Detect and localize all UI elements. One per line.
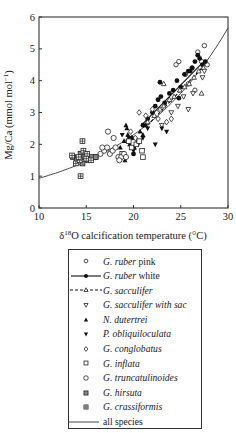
legend-item: G. truncatulinoides (69, 371, 201, 386)
legend-item: N. dutertrei (69, 312, 201, 327)
legend-label: G. inflata (103, 359, 140, 369)
legend-item: G. ruber pink (69, 254, 201, 269)
legend-label: P. obliquiloculata (103, 329, 171, 339)
svg-text:4: 4 (30, 75, 36, 86)
legend: G. ruber pinkG. ruber whiteG. sacculifer… (68, 249, 202, 429)
legend-label: G. sacculifer with sac (103, 300, 187, 310)
legend-label: G. conglobatus (103, 344, 162, 354)
legend-item: G. hirsuta (69, 385, 201, 400)
legend-marker-icon (69, 299, 103, 311)
svg-text:15: 15 (81, 211, 92, 222)
legend-item: G. inflata (69, 356, 201, 371)
data-points (70, 43, 210, 178)
svg-text:1: 1 (30, 171, 35, 182)
legend-marker-icon (69, 387, 103, 399)
legend-marker-icon (69, 328, 103, 340)
legend-label: N. dutertrei (103, 315, 147, 325)
svg-text:20: 20 (128, 211, 139, 222)
legend-item: G. sacculifer with sac (69, 298, 201, 313)
legend-item: G. conglobatus (69, 342, 201, 357)
legend-label: all species (103, 417, 143, 427)
svg-text:25: 25 (176, 211, 187, 222)
legend-label: G. truncatulinoides (103, 373, 178, 383)
svg-text:6: 6 (30, 12, 35, 23)
plot-frame (39, 17, 228, 208)
legend-marker-icon (69, 357, 103, 369)
legend-item: G. ruber white (69, 269, 201, 284)
svg-text:10: 10 (34, 211, 45, 222)
svg-text:5: 5 (30, 43, 35, 54)
legend-marker-icon (69, 401, 103, 413)
svg-text:30: 30 (223, 211, 234, 222)
legend-label: G. sacculifer (103, 286, 153, 296)
legend-marker-icon (69, 314, 103, 326)
y-axis-label: Mg/Ca (mmol mol−1) (2, 70, 15, 160)
legend-item: P. obliquiloculata (69, 327, 201, 342)
legend-label: G. ruber pink (103, 257, 156, 267)
legend-label: G. hirsuta (103, 388, 142, 398)
legend-label: G. ruber white (103, 271, 160, 281)
x-axis-label: δ18O calcification temperature (°C) (59, 229, 207, 242)
svg-text:0: 0 (30, 203, 35, 214)
svg-text:2: 2 (30, 139, 35, 150)
svg-text:3: 3 (30, 107, 35, 118)
legend-label: G. crassiformis (103, 402, 162, 412)
legend-item: G. crassiformis (69, 400, 201, 415)
legend-marker-icon (69, 372, 103, 384)
legend-marker-icon (69, 416, 103, 428)
legend-marker-icon (69, 255, 103, 267)
legend-marker-icon (69, 270, 103, 282)
legend-item: all species (69, 415, 201, 430)
legend-item: G. sacculifer (69, 283, 201, 298)
axis-tick-labels: 10152025300123456 (30, 12, 234, 223)
legend-marker-icon (69, 284, 103, 296)
scatter-plot: 10152025300123456 Mg/Ca (mmol mol−1) δ18… (0, 0, 236, 248)
legend-marker-icon (69, 343, 103, 355)
